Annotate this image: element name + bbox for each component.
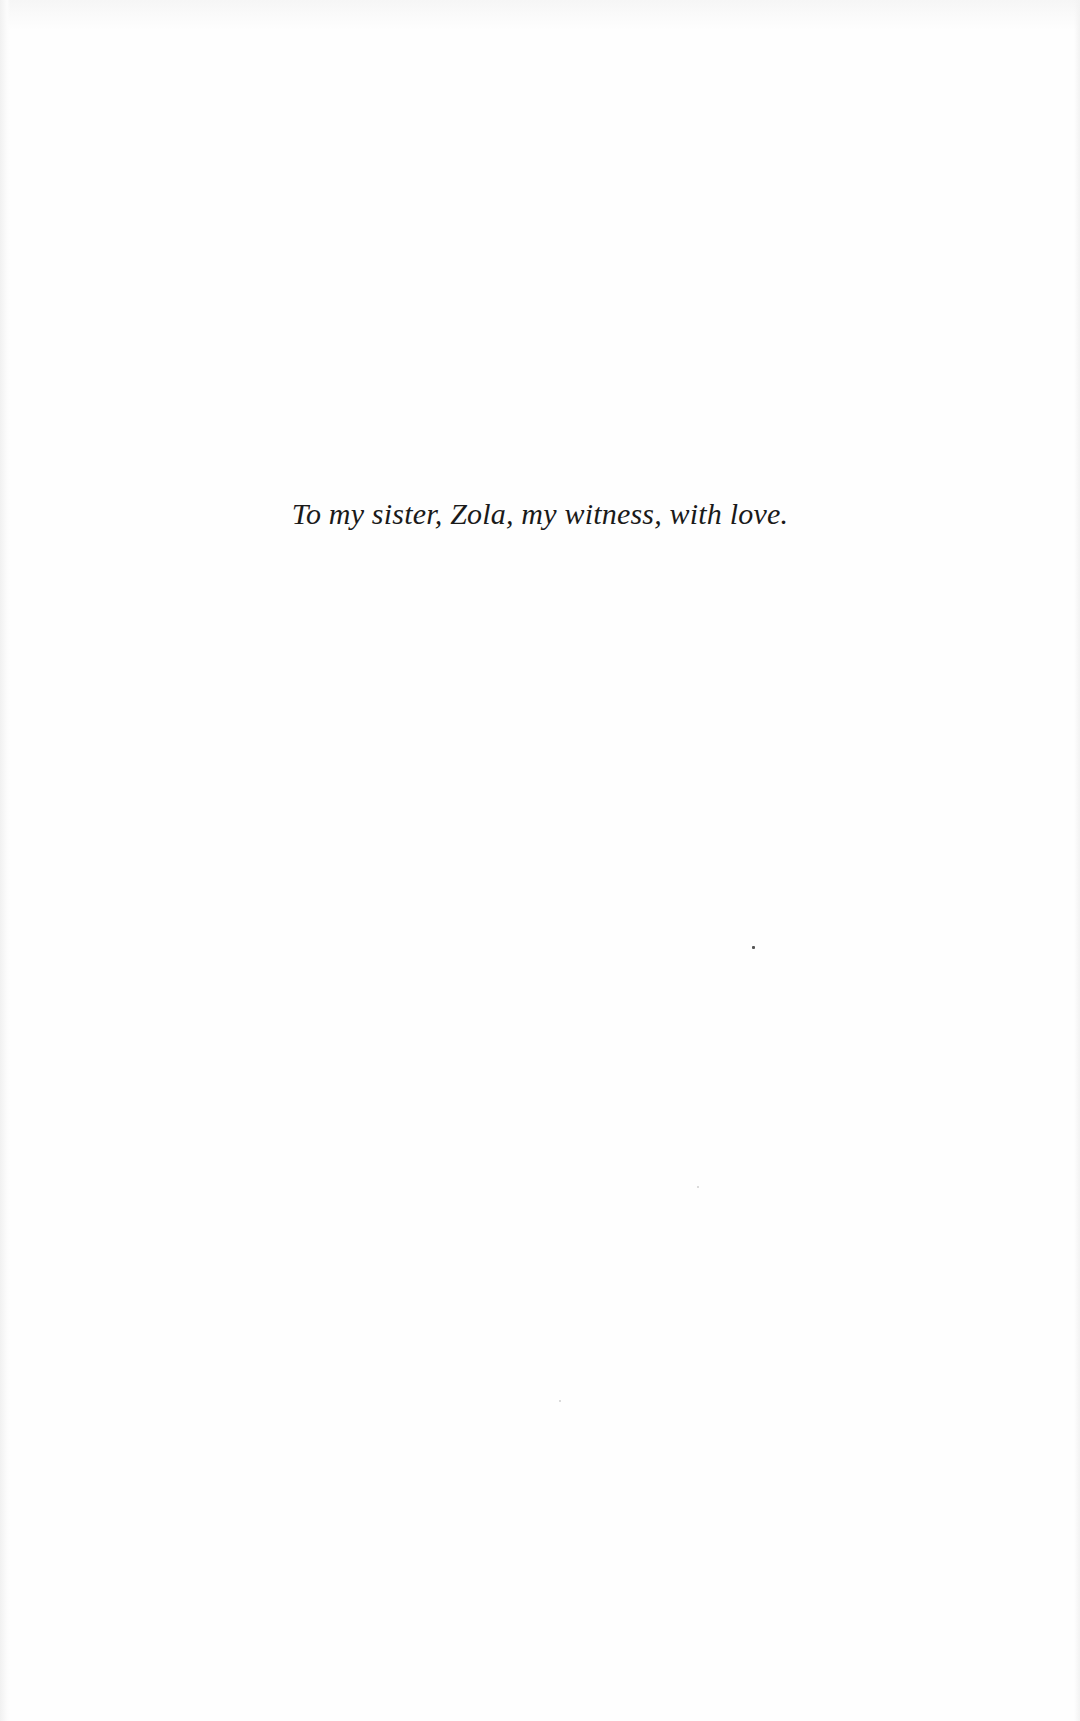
scan-speck xyxy=(752,946,755,949)
page-right-edge xyxy=(1074,0,1080,1721)
book-page: To my sister, Zola, my witness, with lov… xyxy=(0,0,1080,1721)
scan-speck xyxy=(697,1186,699,1188)
page-left-edge xyxy=(0,0,10,1721)
dedication-text: To my sister, Zola, my witness, with lov… xyxy=(0,494,1080,534)
scan-top-bleed xyxy=(0,0,1080,30)
scan-speck xyxy=(559,1400,561,1402)
